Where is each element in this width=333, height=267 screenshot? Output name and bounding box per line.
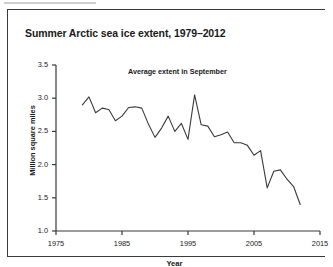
x-axis-tick-label: 1975 <box>36 239 76 248</box>
y-axis-tick-label: 3.5 <box>12 60 48 69</box>
figure-panel: Summer Arctic sea ice extent, 1979–2012 … <box>0 0 333 267</box>
x-axis-tick-label: 1995 <box>168 239 208 248</box>
line-chart-plot <box>8 10 326 258</box>
x-axis-label: Year <box>8 259 333 267</box>
top-rule-decoration <box>4 2 96 4</box>
x-axis-tick-label: 1985 <box>102 239 142 248</box>
axis-lines <box>56 65 320 231</box>
y-axis-tick-label: 2.5 <box>12 126 48 135</box>
x-axis-tick-label: 2005 <box>234 239 274 248</box>
x-axis-tick-label: 2015 <box>300 239 333 248</box>
data-series-line <box>82 95 300 205</box>
y-axis-tick-label: 3.0 <box>12 93 48 102</box>
y-axis-tick-label: 2.0 <box>12 160 48 169</box>
y-axis-tick-label: 1.5 <box>12 193 48 202</box>
x-axis-ticks <box>56 231 320 235</box>
chart-frame: Summer Arctic sea ice extent, 1979–2012 … <box>7 9 325 257</box>
y-axis-tick-label: 1.0 <box>12 226 48 235</box>
